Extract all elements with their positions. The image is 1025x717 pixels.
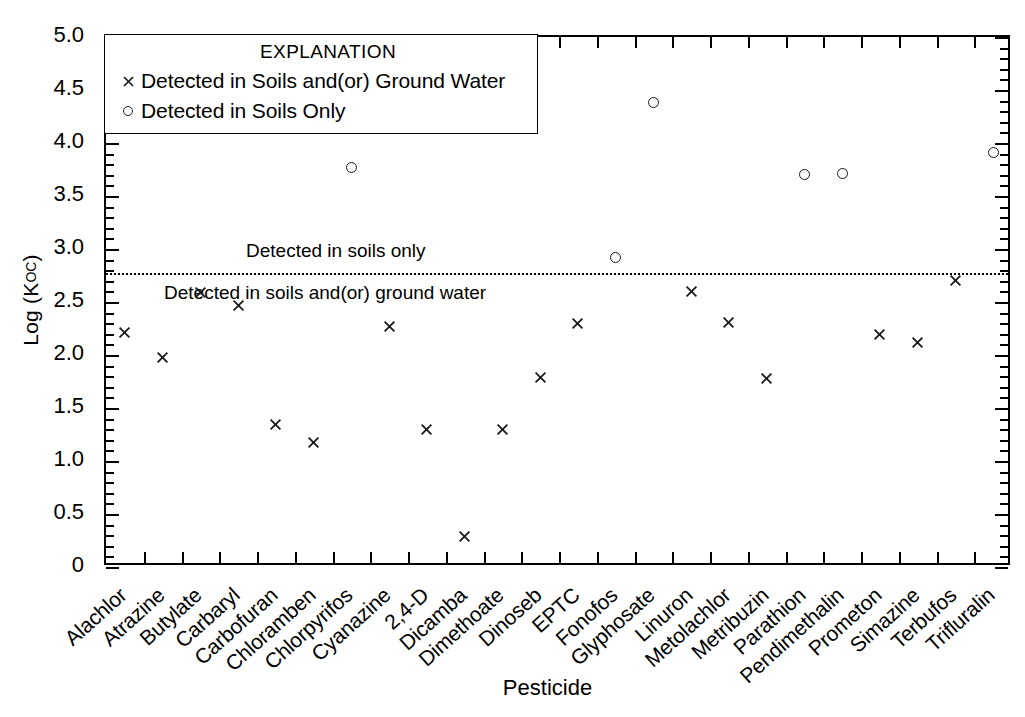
cross-marker-icon [115,74,141,89]
legend-title: EXPLANATION [105,41,537,63]
legend-entry-soils-only: Detected in Soils Only [115,98,345,124]
legend-entry-label: Detected in Soils Only [141,99,345,123]
circle-marker-icon [115,106,141,116]
x-axis-title: Pesticide [0,675,1025,701]
legend-box: EXPLANATION Detected in Soils and(or) Gr… [104,34,538,134]
scatter-chart-figure: Log (KOC) 00.51.01.52.02.53.03.54.04.55.… [0,0,1025,717]
legend-entry-label: Detected in Soils and(or) Ground Water [141,69,505,93]
legend-entry-soils-and-groundwater: Detected in Soils and(or) Ground Water [115,68,505,94]
